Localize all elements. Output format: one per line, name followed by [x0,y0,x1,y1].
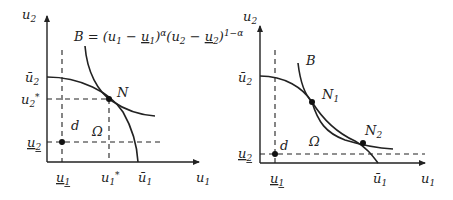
point-N1 [309,99,315,105]
label-N1: N1 [321,87,339,104]
point-d [272,151,278,157]
label-u2-star: u2* [21,92,40,109]
point-d [59,139,65,145]
label-d: d [71,118,79,133]
label-u2-bar: ū2 [238,70,252,87]
label-u1-bar: ū1 [138,170,152,187]
label-u1-under: u1 [56,170,70,187]
label-u2-bar: ū2 [25,70,39,87]
nash-product-equation: B = (u1 − u1)α(u2 − u2)1−α [73,28,243,46]
label-omega: Ω [91,124,103,139]
label-u1-under: u1 [270,171,284,188]
label-B: B [305,53,316,68]
right-x-axis-label: u1 [421,171,435,188]
bargaining-diagrams: u2 u1 B = (u1 − u1)α(u2 − u2)1−α N d Ω ū… [0,0,453,200]
left-y-axis-label: u2 [22,7,36,24]
point-N2 [360,140,366,146]
label-d: d [280,138,288,153]
right-y-axis-label: u2 [243,9,257,26]
label-u2-under: u2 [238,146,252,163]
label-omega: Ω [308,134,320,149]
right-panel: u2 u1 B N1 N2 d Ω ū2 u2 u1 ū1 [238,9,435,188]
left-x-axis-label: u1 [196,170,210,187]
label-N: N [116,85,129,100]
point-N [106,96,112,102]
label-u1-star: u1* [101,170,120,187]
label-N2: N2 [364,123,382,140]
left-panel: u2 u1 B = (u1 − u1)α(u2 − u2)1−α N d Ω ū… [21,7,243,187]
label-u1-bar: ū1 [373,171,387,188]
nash-product-curve [85,46,155,116]
label-u2-under: u2 [27,135,41,152]
